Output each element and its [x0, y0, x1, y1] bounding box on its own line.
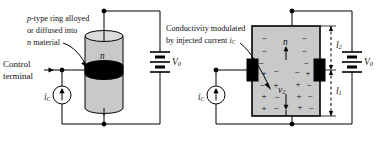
left-annotation-line2: or diffused into: [27, 26, 77, 36]
left-node-bottom: [102, 122, 106, 126]
right-current-source-label: iC: [198, 92, 205, 103]
charge-symbol: −: [307, 91, 312, 101]
charge-symbol: +: [261, 91, 266, 101]
right-dimension-upper-label: l2: [336, 40, 342, 51]
left-node-top: [102, 9, 106, 13]
right-body-label: n: [283, 37, 288, 48]
figure-canvas: − − − − − − + − − + − + + − + − + − + − …: [0, 0, 379, 142]
charge-symbol: −: [294, 67, 299, 77]
charge-symbol: +: [296, 91, 301, 101]
charge-symbol: +: [305, 68, 310, 78]
charge-symbol: −: [259, 80, 264, 90]
right-dim-arrow-up-mid: [329, 70, 333, 75]
charge-symbol: −: [308, 103, 313, 113]
charge-symbol: −: [273, 103, 278, 113]
charge-symbol: −: [261, 33, 266, 43]
left-current-source-label: iC: [44, 92, 51, 103]
charge-symbol: −: [301, 46, 306, 56]
charge-symbol: −: [273, 66, 278, 76]
right-annotation-line1: Conductivity modulated: [166, 24, 245, 34]
right-inner-label: v2: [278, 85, 285, 96]
left-annotation-line3: n material: [27, 38, 60, 48]
right-dim-arrow-down-mid: [329, 65, 333, 70]
charge-symbol: +: [297, 102, 302, 112]
left-node-control: [60, 68, 64, 72]
charge-symbol: −: [301, 33, 306, 43]
charge-symbol: +: [261, 68, 266, 78]
right-node-bottom: [290, 122, 294, 126]
left-battery-label: V0: [172, 57, 181, 68]
left-body-label: n: [100, 51, 105, 62]
charge-symbol: +: [261, 103, 266, 113]
charge-symbol: −: [261, 46, 266, 56]
right-node-top: [290, 9, 294, 13]
right-dim-arrow-up-top: [329, 26, 333, 31]
left-control-terminal-line2: terminal: [3, 71, 33, 82]
right-dimension-lower-label: l1: [336, 86, 342, 97]
charge-symbol: −: [306, 80, 311, 90]
left-ring-top-ellipse: [85, 61, 123, 72]
right-battery-label: V0: [364, 57, 373, 68]
right-node-control: [214, 68, 218, 72]
left-annotation-line1: p-type ring alloyed: [27, 14, 89, 24]
left-control-terminal-line1: Control: [3, 59, 31, 70]
charge-symbol: −: [258, 58, 263, 68]
right-dim-arrow-down-bottom: [329, 111, 333, 116]
right-electrode-right: [314, 59, 325, 81]
left-control-arrowhead: [49, 68, 55, 73]
charge-symbol: −: [303, 58, 308, 68]
charge-symbol: +: [295, 79, 300, 89]
right-annotation-line2: by injected current iC: [166, 36, 235, 46]
